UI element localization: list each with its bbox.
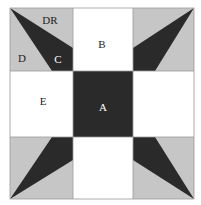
quilt-block-diagram: DR D C B E A — [0, 0, 201, 205]
label-d: D — [18, 52, 26, 64]
label-b: B — [98, 38, 105, 50]
label-e: E — [40, 95, 47, 107]
label-a: A — [99, 101, 107, 113]
label-dr: DR — [42, 14, 58, 26]
label-c: C — [54, 53, 61, 65]
